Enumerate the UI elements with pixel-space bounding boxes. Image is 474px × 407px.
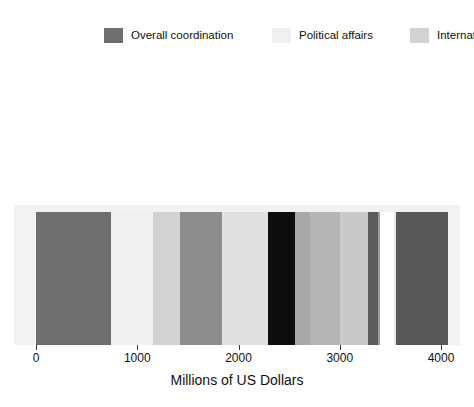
x-axis-tick-label: 3000 — [326, 351, 353, 365]
chart-legend: Overall coordinationPolitical affairsInt… — [104, 24, 410, 47]
legend-item[interactable]: Overall coordination — [104, 24, 272, 47]
legend-swatch-icon — [410, 28, 429, 43]
legend-item-label: International law — [437, 29, 474, 42]
x-axis-tick-label: 4000 — [428, 351, 455, 365]
bar-segment[interactable] — [396, 212, 448, 345]
bar-segment[interactable] — [380, 212, 394, 345]
bar-segment[interactable] — [268, 212, 295, 345]
x-axis-tick — [36, 345, 37, 350]
plot-area — [14, 205, 460, 345]
bar-segment[interactable] — [222, 212, 268, 345]
chart-title — [0, 0, 474, 2]
legend-swatch-icon — [104, 28, 123, 43]
legend-item-label: Overall coordination — [131, 29, 233, 42]
x-axis: 01000200030004000 — [0, 345, 474, 375]
x-axis-tick — [441, 345, 442, 350]
stacked-bar — [14, 205, 460, 345]
bar-segment[interactable] — [153, 212, 180, 345]
legend-swatch-icon — [272, 28, 291, 43]
bar-segment[interactable] — [310, 212, 340, 345]
bar-segment[interactable] — [111, 212, 153, 345]
bar-segment[interactable] — [36, 212, 111, 345]
x-axis-title: Millions of US Dollars — [0, 372, 474, 388]
x-axis-tick — [239, 345, 240, 350]
x-axis-tick-label: 0 — [33, 351, 40, 365]
bar-segment[interactable] — [368, 212, 378, 345]
x-axis-tick-label: 1000 — [124, 351, 151, 365]
bar-segment[interactable] — [340, 212, 368, 345]
legend-item[interactable]: Political affairs — [272, 24, 410, 47]
legend-item-label: Political affairs — [299, 29, 373, 42]
bar-segment[interactable] — [295, 212, 310, 345]
x-axis-tick-label: 2000 — [225, 351, 252, 365]
x-axis-tick — [340, 345, 341, 350]
legend-item[interactable]: International law — [410, 24, 474, 47]
bar-segment[interactable] — [180, 212, 222, 345]
x-axis-tick — [137, 345, 138, 350]
